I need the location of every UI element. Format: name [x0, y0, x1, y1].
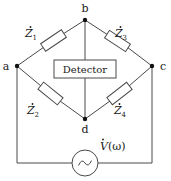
impedance-z2-subscript: 2 [35, 111, 39, 119]
wire-a-to-z2 [17, 66, 41, 86]
wire-b-to-z3 [85, 20, 108, 35]
impedance-label-z4: Z4 [113, 103, 127, 118]
source-label: V(ω) [100, 139, 126, 153]
impedance-z1-symbol: Z [24, 27, 33, 40]
impedance-z4-dot-accent [119, 103, 121, 105]
wire-d-to-z4 [85, 101, 110, 119]
impedance-z4-body[interactable] [107, 82, 132, 104]
impedance-z1-dot-accent [30, 26, 32, 28]
svg-text:Z3: Z3 [114, 27, 127, 42]
node-label-d: d [81, 123, 88, 136]
source-argument: (ω) [108, 140, 126, 153]
node-dot-a [15, 64, 19, 68]
wire-z1-to-b [63, 20, 85, 34]
svg-text:Z1: Z1 [24, 27, 37, 42]
wire-a-to-source [17, 66, 72, 163]
node-label-c: c [160, 60, 166, 73]
circuit-diagram-page: Detector a b c d Z1 Z3 [0, 0, 171, 181]
wire-a-to-z1 [17, 47, 44, 66]
node-label-b: b [81, 2, 88, 15]
detector-box[interactable]: Detector [54, 60, 116, 78]
impedance-z3-symbol: Z [114, 27, 123, 40]
impedance-z4-subscript: 4 [122, 111, 127, 119]
svg-text:Z4: Z4 [113, 104, 127, 119]
node-label-a: a [3, 60, 10, 73]
wheatstone-bridge-diagram: Detector a b c d Z1 Z3 [0, 0, 171, 181]
source-dot-accent [102, 139, 104, 141]
node-dot-c [150, 64, 154, 68]
svg-text:V(ω): V(ω) [100, 140, 126, 153]
impedance-z4[interactable] [107, 82, 132, 104]
impedance-label-z3: Z3 [114, 26, 127, 41]
impedance-z4-symbol: Z [113, 104, 122, 117]
impedance-label-z1: Z1 [24, 26, 37, 41]
svg-text:Z2: Z2 [26, 104, 39, 119]
impedance-z1-subscript: 1 [33, 34, 37, 42]
impedance-z3-dot-accent [120, 26, 122, 28]
wire-z2-to-d [60, 101, 85, 119]
impedance-z1-body[interactable] [41, 30, 67, 51]
impedance-z2-body[interactable] [38, 82, 63, 105]
wire-z3-to-c [127, 47, 152, 66]
impedance-z1[interactable] [41, 30, 67, 51]
ac-voltage-source[interactable] [72, 150, 98, 176]
node-dot-b [83, 18, 87, 22]
wire-z4-to-c [129, 66, 152, 86]
impedance-z2-dot-accent [32, 103, 34, 105]
node-dot-d [83, 117, 87, 121]
impedance-label-z2: Z2 [26, 103, 39, 118]
detector-label: Detector [63, 64, 108, 75]
impedance-z3-subscript: 3 [123, 34, 127, 42]
impedance-z2-symbol: Z [26, 104, 35, 117]
impedance-z2[interactable] [38, 82, 63, 105]
